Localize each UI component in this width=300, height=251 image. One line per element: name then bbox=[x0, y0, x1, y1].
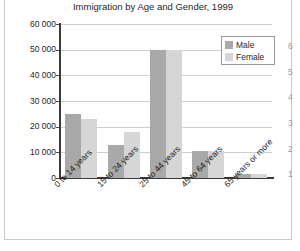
y-axis-tick-labels: 010 00020 00030 00040 00050 00060 000 bbox=[0, 24, 56, 178]
adjacent-chart-tick-label: 3 bbox=[288, 119, 293, 128]
legend-label-female: Female bbox=[236, 53, 264, 62]
legend-swatch-male bbox=[225, 41, 233, 49]
y-axis-tick-label: 50 000 bbox=[4, 45, 56, 54]
y-axis-tick-label: 30 000 bbox=[4, 97, 56, 106]
y-axis-tick-label: 20 000 bbox=[4, 122, 56, 131]
adjacent-chart-tick-label: 2 bbox=[288, 145, 293, 154]
y-axis-tick-label: 60 000 bbox=[4, 20, 56, 29]
adjacent-chart-tick-label: 4 bbox=[288, 93, 293, 102]
y-axis-tick-label: 10 000 bbox=[4, 148, 56, 157]
adjacent-chart-partial: 654321 bbox=[288, 24, 300, 178]
y-axis-tick-label: 40 000 bbox=[4, 71, 56, 80]
adjacent-chart-tick-label: 5 bbox=[288, 68, 293, 77]
legend-swatch-female bbox=[225, 53, 233, 61]
chart-legend: Male Female bbox=[221, 36, 275, 65]
legend-item-female: Female bbox=[225, 51, 271, 63]
adjacent-chart-tick-label: 1 bbox=[288, 170, 293, 178]
chart-title: Immigration by Age and Gender, 1999 bbox=[38, 1, 268, 13]
legend-label-male: Male bbox=[236, 41, 254, 50]
x-axis-category-labels: 0 to 14 years15 to 24 years25 to 44 year… bbox=[0, 178, 300, 251]
adjacent-chart-tick-label: 6 bbox=[288, 42, 293, 51]
immigration-bar-chart: Immigration by Age and Gender, 1999 010 … bbox=[0, 0, 300, 251]
legend-item-male: Male bbox=[225, 39, 271, 51]
